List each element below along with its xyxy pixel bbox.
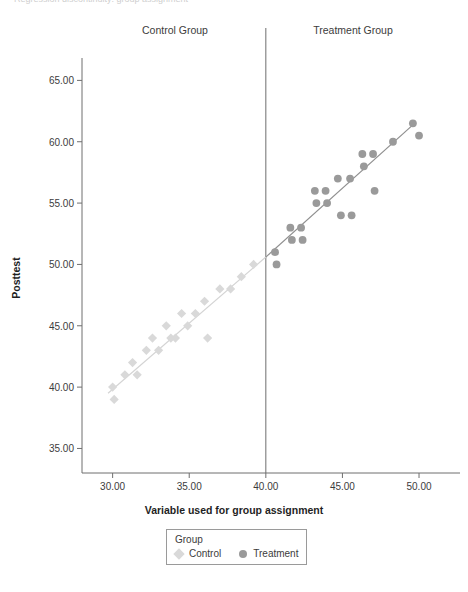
- data-point-treatment: [337, 211, 345, 219]
- y-tick-label: 55.00: [28, 198, 74, 209]
- legend-item-treatment[interactable]: Treatment: [239, 548, 298, 559]
- diamond-marker-icon: [173, 548, 184, 559]
- x-axis-title: Variable used for group assignment: [0, 504, 468, 516]
- data-point-control: [120, 370, 129, 379]
- data-point-control: [183, 321, 192, 330]
- data-point-control: [237, 272, 246, 281]
- legend-entries: Control Treatment: [175, 548, 298, 559]
- data-point-treatment: [323, 199, 331, 207]
- data-point-control: [215, 284, 224, 293]
- y-tick-label: 35.00: [28, 443, 74, 454]
- data-point-treatment: [389, 138, 397, 146]
- data-point-control: [108, 383, 117, 392]
- data-point-control: [177, 309, 186, 318]
- fit-lines: [108, 122, 416, 393]
- y-tick-label: 65.00: [28, 75, 74, 86]
- data-point-treatment: [322, 187, 330, 195]
- data-point-control: [142, 346, 151, 355]
- data-point-treatment: [371, 187, 379, 195]
- data-point-treatment: [311, 187, 319, 195]
- data-point-treatment: [288, 236, 296, 244]
- legend-title: Group: [175, 534, 298, 545]
- data-point-treatment: [299, 236, 307, 244]
- data-point-treatment: [358, 150, 366, 158]
- data-point-treatment: [415, 132, 423, 140]
- y-tick-label: 50.00: [28, 259, 74, 270]
- plot-axes: [77, 58, 460, 478]
- y-axis-title: Posttest: [10, 238, 22, 318]
- data-point-treatment: [334, 175, 342, 183]
- y-tick-label: 40.00: [28, 382, 74, 393]
- data-point-treatment: [286, 224, 294, 232]
- data-point-treatment: [409, 119, 417, 127]
- data-point-treatment: [348, 211, 356, 219]
- data-point-treatment: [346, 175, 354, 183]
- legend-label-treatment: Treatment: [253, 548, 298, 559]
- x-tick-label: 30.00: [83, 481, 143, 492]
- data-point-treatment: [297, 224, 305, 232]
- x-tick-label: 40.00: [236, 481, 296, 492]
- data-point-control: [200, 297, 209, 306]
- data-point-control: [148, 333, 157, 342]
- data-point-treatment: [273, 261, 281, 269]
- x-tick-label: 35.00: [159, 481, 219, 492]
- data-point-control: [128, 358, 137, 367]
- data-point-control: [162, 321, 171, 330]
- data-point-control: [110, 395, 119, 404]
- legend-label-control: Control: [189, 548, 221, 559]
- y-tick-label: 45.00: [28, 320, 74, 331]
- x-tick-label: 50.00: [389, 481, 449, 492]
- data-point-control: [249, 260, 258, 269]
- data-point-control: [226, 284, 235, 293]
- data-point-control: [203, 333, 212, 342]
- data-point-treatment: [369, 150, 377, 158]
- legend-item-control[interactable]: Control: [175, 548, 221, 559]
- data-point-treatment: [312, 199, 320, 207]
- y-tick-label: 60.00: [28, 136, 74, 147]
- data-point-treatment: [271, 248, 279, 256]
- data-point-control: [191, 309, 200, 318]
- data-point-treatment: [360, 162, 368, 170]
- x-tick-label: 45.00: [312, 481, 372, 492]
- circle-marker-icon: [239, 550, 247, 558]
- regression-discontinuity-figure: Regression discontinuity: group assignme…: [0, 0, 468, 592]
- chart-legend: Group Control Treatment: [166, 529, 307, 565]
